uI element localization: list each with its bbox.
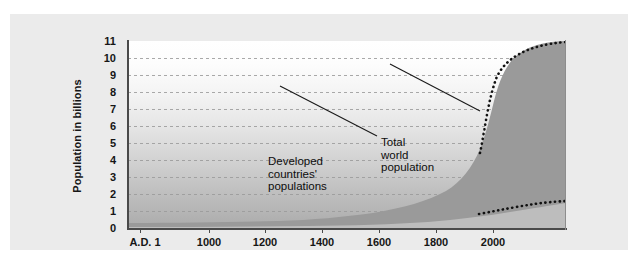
y-tick-5: 5 (98, 138, 116, 149)
x-tick-1000: 1000 (197, 236, 221, 248)
plot-area (128, 41, 566, 228)
y-tick-4: 4 (98, 155, 116, 166)
y-tick-8: 8 (98, 87, 116, 98)
developed-leader-line (280, 86, 377, 136)
x-axis-line (127, 228, 567, 230)
x-tick-1800: 1800 (424, 236, 448, 248)
annotation-total-world-population: Total world population (381, 136, 434, 174)
y-tick-1: 1 (98, 206, 116, 217)
y-tick-6: 6 (98, 121, 116, 132)
chart-panel: Population in billions 11 10 9 8 7 6 5 4… (10, 14, 628, 250)
population-growth-figure: Population in billions 11 10 9 8 7 6 5 4… (0, 0, 640, 263)
y-tick-0: 0 (98, 223, 116, 234)
y-tick-3: 3 (98, 172, 116, 183)
y-axis-label: Population in billions (71, 71, 83, 201)
y-tick-7: 7 (98, 104, 116, 115)
x-tick-1400: 1400 (310, 236, 334, 248)
series-svg (128, 41, 566, 228)
x-tick-2000: 2000 (481, 236, 505, 248)
y-axis-line (127, 40, 129, 230)
total-leader-line (390, 64, 480, 111)
y-tick-9: 9 (98, 70, 116, 81)
plot-right-border (565, 40, 566, 230)
y-tick-11: 11 (98, 36, 116, 47)
y-tick-2: 2 (98, 189, 116, 200)
annotation-developed-countries: Developed countries' populations (268, 155, 327, 193)
x-tick-1200: 1200 (253, 236, 277, 248)
y-tick-10: 10 (98, 53, 116, 64)
y-axis-label-wrapper: Population in billions (14, 74, 144, 88)
x-tick-1600: 1600 (367, 236, 391, 248)
x-tick-ad1: A.D. 1 (129, 236, 160, 248)
